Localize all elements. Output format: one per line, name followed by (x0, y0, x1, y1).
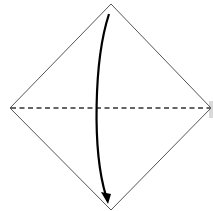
origami-diagram (0, 0, 213, 211)
paper-diamond (10, 4, 211, 210)
